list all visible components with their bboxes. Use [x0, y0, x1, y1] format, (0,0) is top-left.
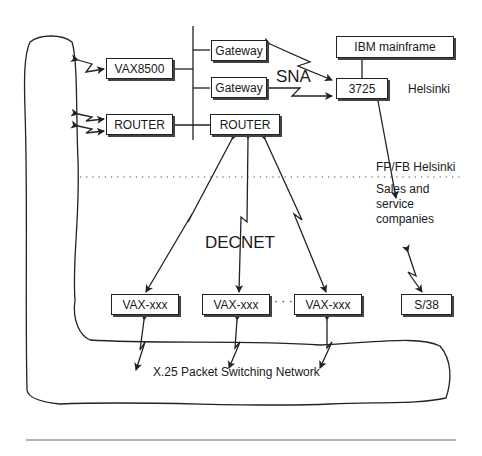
node-s38: S/38 — [401, 294, 452, 315]
node-router-center: ROUTER — [210, 114, 280, 135]
node-vax-1: VAX-xxx — [111, 294, 179, 315]
helsinki-label: Helsinki — [408, 82, 450, 96]
node-ibm-mainframe: IBM mainframe — [336, 36, 454, 58]
ellipsis-label: · · · — [274, 294, 293, 308]
node-3725: 3725 — [336, 78, 388, 99]
node-gateway-top: Gateway — [211, 40, 267, 61]
node-gateway-bottom: Gateway — [211, 77, 267, 98]
connection-lines — [0, 0, 482, 456]
x25-network-label: X.25 Packet Switching Network — [153, 365, 320, 379]
node-vax-3: VAX-xxx — [294, 294, 362, 315]
sna-label: SNA — [276, 67, 311, 87]
node-vax8500: VAX8500 — [106, 58, 173, 79]
decnet-label: DECNET — [205, 233, 275, 253]
node-router-left: ROUTER — [106, 114, 173, 135]
sales-service-label: Sales and service companies — [376, 182, 434, 227]
node-vax-2: VAX-xxx — [202, 294, 270, 315]
fpfb-helsinki-label: FP/FB Helsinki — [376, 160, 455, 174]
